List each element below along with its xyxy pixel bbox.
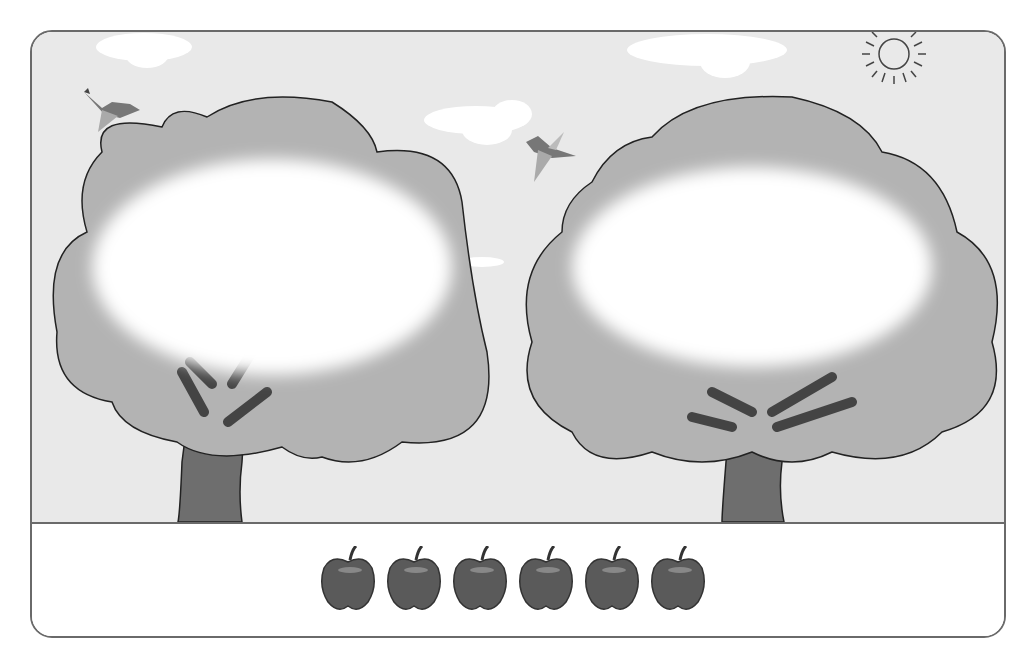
bird-icon — [526, 132, 576, 182]
tree-scene — [32, 32, 1004, 522]
apple-icon[interactable] — [584, 546, 640, 612]
apple-row — [320, 546, 706, 612]
sun-icon — [862, 32, 926, 84]
right-tree — [526, 97, 997, 523]
apple-icon[interactable] — [518, 546, 574, 612]
apple-icon[interactable] — [320, 546, 376, 612]
apple-tray — [32, 524, 1004, 638]
left-tree — [53, 97, 489, 522]
apple-icon[interactable] — [386, 546, 442, 612]
apple-icon[interactable] — [650, 546, 706, 612]
apple-icon[interactable] — [452, 546, 508, 612]
worksheet-card — [30, 30, 1006, 638]
